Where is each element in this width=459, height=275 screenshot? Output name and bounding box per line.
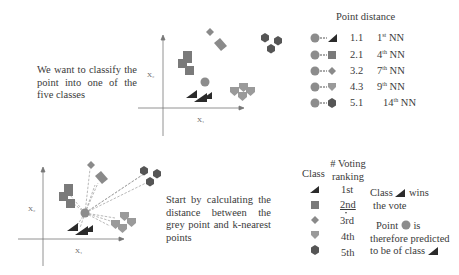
result-text: Class wins the vote Point is therefore p… [370,187,459,258]
result-line1: Class wins [370,187,459,200]
hexagon-icon [311,245,319,255]
voting-rank: 4th [341,231,354,242]
square-icon [311,201,319,209]
diamond-icon [311,216,319,224]
shield-icon [311,231,319,239]
result-line2: the vote [370,200,459,213]
voting-rank: 5th [341,247,354,258]
voting-rank: 1st [341,184,353,195]
voting-rank: 2nd [340,199,356,210]
grey-point-icon [401,220,411,230]
black-wedge-icon [428,246,439,255]
result-line3: Point is [370,220,459,233]
voting-rank: 3rd [340,215,354,226]
black-wedge-icon [395,188,406,197]
black-wedge-icon [310,186,319,193]
result-line4: therefore predicted [370,233,459,246]
result-line5: to be of class [370,245,459,258]
